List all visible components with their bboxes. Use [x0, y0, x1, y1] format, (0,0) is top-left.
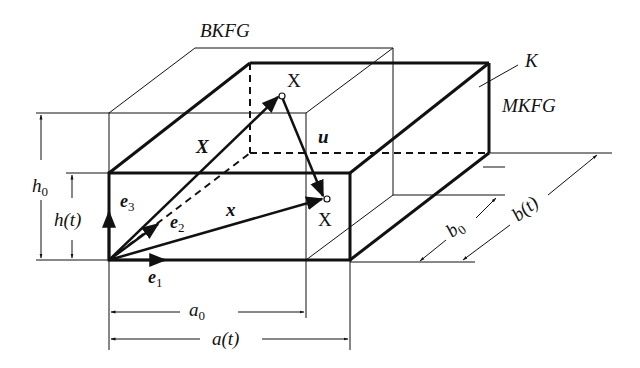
label-vec-u: u: [318, 126, 329, 147]
label-bt: b(t): [508, 192, 543, 226]
label-bkfg: BKFG: [200, 20, 250, 41]
label-at: a(t): [212, 328, 239, 350]
hidden-edges: [109, 63, 489, 260]
diagram-canvas: BKFG MKFG K X X X x u e1 e2 e3 h0 h(t) a…: [0, 0, 640, 368]
point-ref-marker: [279, 93, 285, 99]
current-body-mkfg: [109, 63, 489, 260]
label-ht: h(t): [54, 209, 81, 231]
point-cur-marker: [324, 196, 330, 202]
label-mkfg: MKFG: [501, 95, 556, 116]
basis-e2: [109, 224, 158, 260]
label-point-ref: X: [287, 70, 301, 91]
block-deformation-diagram: BKFG MKFG K X X X x u e1 e2 e3 h0 h(t) a…: [0, 0, 640, 368]
label-point-cur: X: [318, 209, 332, 230]
label-h0: h0: [32, 175, 48, 199]
label-vec-x: x: [225, 199, 236, 220]
label-e2: e2: [170, 212, 185, 235]
label-a0: a0: [189, 299, 205, 323]
label-e3: e3: [120, 191, 135, 214]
label-vec-X: X: [195, 136, 210, 157]
label-k: K: [524, 50, 539, 71]
label-e1: e1: [148, 267, 163, 290]
vector-u: [282, 97, 323, 196]
label-b0: b0: [442, 215, 469, 244]
